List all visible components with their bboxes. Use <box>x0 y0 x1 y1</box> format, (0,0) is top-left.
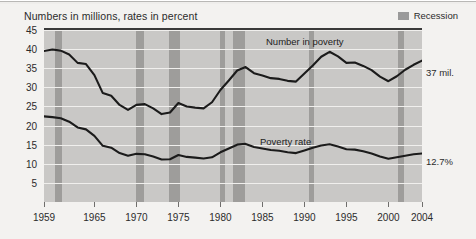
x-axis-tick-label: 1959 <box>33 212 55 223</box>
series-line-number-in-poverty <box>44 49 422 114</box>
series-line-poverty-rate <box>44 116 422 159</box>
x-axis-tick-label: 1990 <box>293 212 315 223</box>
x-axis-tick-mark <box>44 202 45 207</box>
x-axis-tick-mark <box>422 202 423 207</box>
end-value-number-in-poverty: 37 mil. <box>426 67 454 78</box>
x-axis-tick-mark <box>220 202 221 207</box>
x-axis-tick-label: 1975 <box>167 212 189 223</box>
legend-item-label: Recession <box>414 10 458 21</box>
x-axis-tick-label: 2000 <box>377 212 399 223</box>
y-axis-tick-label: 40 <box>26 44 37 55</box>
x-axis-tick-label: 1980 <box>209 212 231 223</box>
x-axis-tick-mark <box>346 202 347 207</box>
x-axis-tick-mark <box>304 202 305 207</box>
x-axis-tick-label: 1995 <box>335 212 357 223</box>
x-axis-tick-mark <box>178 202 179 207</box>
chart-title: Numbers in millions, rates in percent <box>24 10 198 22</box>
y-axis-tick-label: 30 <box>26 82 37 93</box>
x-axis-tick-label: 1970 <box>125 212 147 223</box>
series-label-number-in-poverty: Number in poverty <box>266 36 344 47</box>
x-axis-tick-label: 2004 <box>411 212 433 223</box>
plot-area: Number in poverty Poverty rate <box>44 30 422 202</box>
end-value-poverty-rate: 12.7% <box>426 156 453 167</box>
x-axis-tick-mark <box>136 202 137 207</box>
y-axis-tick-label: 15 <box>26 139 37 150</box>
y-axis-tick-label: 35 <box>26 63 37 74</box>
x-axis-tick-label: 1965 <box>83 212 105 223</box>
x-axis-tick-mark <box>388 202 389 207</box>
chart-legend: Recession <box>398 10 458 21</box>
y-axis: 45403530252015105 <box>0 30 42 202</box>
y-axis-tick-label: 5 <box>31 177 37 188</box>
x-axis-tick-mark <box>262 202 263 207</box>
y-axis-tick-label: 25 <box>26 101 37 112</box>
x-axis-tick-label: 1985 <box>251 212 273 223</box>
recession-swatch-icon <box>398 12 409 20</box>
x-axis: 1959196519701975198019851990199520002004 <box>44 202 422 238</box>
x-axis-tick-mark <box>94 202 95 207</box>
y-axis-tick-label: 10 <box>26 158 37 169</box>
series-label-poverty-rate: Poverty rate <box>260 136 311 147</box>
series-lines <box>44 30 422 202</box>
chart-figure: Numbers in millions, rates in percent Re… <box>0 4 476 239</box>
y-axis-tick-label: 20 <box>26 120 37 131</box>
y-axis-tick-label: 45 <box>26 25 37 36</box>
